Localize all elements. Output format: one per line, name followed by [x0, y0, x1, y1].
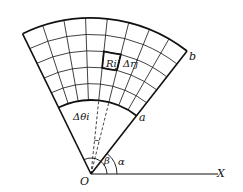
polar-grid-diagram: O X a b Rij Δrj Δθi α β: [0, 0, 243, 192]
inner-arc-label-a: a: [139, 112, 146, 123]
grid-spoke: [86, 18, 89, 100]
outer-arc-label-b: b: [189, 51, 196, 62]
grid-spoke: [64, 20, 78, 101]
radial-step-label: Δrj: [123, 59, 138, 69]
origin-label: O: [80, 176, 89, 187]
angle-alpha-label: α: [118, 157, 125, 167]
grid-spoke: [43, 26, 68, 104]
cell-label-rij: Rij: [106, 59, 120, 69]
angular-step-label: Δθi: [73, 112, 89, 122]
angle-beta-label: β: [104, 156, 110, 166]
ray-beta: [23, 34, 91, 174]
dashed-ray-2: [91, 100, 99, 174]
delta-theta-arc: [95, 140, 100, 141]
x-axis-label: X: [217, 168, 225, 179]
